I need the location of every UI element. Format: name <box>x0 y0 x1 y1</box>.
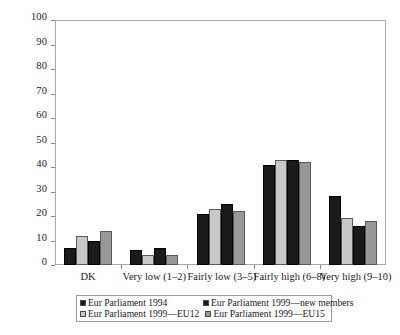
legend-row: Eur Parliament 1999—EU12 Eur Parliament … <box>80 308 329 319</box>
bar-group <box>197 20 245 265</box>
y-axis-tick-label: 90 <box>36 37 47 48</box>
y-axis-tick-label: 70 <box>36 86 47 97</box>
x-axis-tick-mark <box>121 265 122 269</box>
bar <box>64 248 76 265</box>
x-axis: DKVery low (1–2)Fairly low (3–5)Fairly h… <box>55 265 386 287</box>
bar <box>197 214 209 265</box>
x-axis-label: Very high (9–10) <box>320 271 386 283</box>
bar <box>88 241 100 266</box>
x-axis-label: DK <box>55 271 121 283</box>
legend-item-1: Eur Parliament 1999—new members <box>203 297 329 308</box>
bar-group <box>263 20 311 265</box>
x-axis-label: Fairly high (6–8) <box>254 271 320 283</box>
y-axis-tick-label: 0 <box>42 257 47 268</box>
bar <box>76 236 88 265</box>
bar-group <box>130 20 178 265</box>
bar <box>154 248 166 265</box>
legend-label-2: Eur Parliament 1999—EU12 <box>88 308 199 319</box>
chart-legend: Eur Parliament 1994 Eur Parliament 1999—… <box>76 295 332 322</box>
bar-group <box>329 20 377 265</box>
bar <box>341 218 353 265</box>
bar-chart: 0102030405060708090100 DKVery low (1–2)F… <box>0 0 400 335</box>
bars-layer <box>55 20 386 265</box>
legend-label-3: Eur Parliament 1999—EU15 <box>213 308 324 319</box>
bar <box>209 209 221 265</box>
legend-item-2: Eur Parliament 1999—EU12 <box>80 308 205 319</box>
legend-label-0: Eur Parliament 1994 <box>88 297 167 308</box>
bar <box>130 250 142 265</box>
y-axis: 0102030405060708090100 <box>0 20 55 265</box>
legend-row: Eur Parliament 1994 Eur Parliament 1999—… <box>80 297 329 308</box>
bar <box>263 165 275 265</box>
bar <box>142 255 154 265</box>
x-axis-label: Fairly low (3–5) <box>187 271 253 283</box>
legend-swatch-icon-1 <box>203 300 209 306</box>
x-axis-tick-mark <box>187 265 188 269</box>
bar <box>166 255 178 265</box>
legend-swatch-icon-3 <box>205 311 211 317</box>
y-axis-tick-label: 20 <box>36 208 47 219</box>
y-axis-tick-label: 100 <box>31 12 47 23</box>
bar <box>287 160 299 265</box>
bar <box>365 221 377 265</box>
legend-label-1: Eur Parliament 1999—new members <box>211 297 354 308</box>
x-axis-tick-mark <box>320 265 321 269</box>
y-axis-tick-label: 30 <box>36 184 47 195</box>
bar <box>299 162 311 265</box>
bar <box>221 204 233 265</box>
legend-item-0: Eur Parliament 1994 <box>80 297 203 308</box>
y-axis-tick-label: 80 <box>36 61 47 72</box>
legend-swatch-icon-0 <box>80 300 86 306</box>
bar <box>353 226 365 265</box>
y-axis-tick-label: 10 <box>36 233 47 244</box>
bar <box>100 231 112 265</box>
y-axis-tick-label: 50 <box>36 135 47 146</box>
bar <box>233 211 245 265</box>
x-axis-tick-mark <box>254 265 255 269</box>
bar <box>275 160 287 265</box>
bar <box>329 196 341 265</box>
y-axis-tick-label: 40 <box>36 159 47 170</box>
legend-swatch-icon-2 <box>80 311 86 317</box>
legend-item-3: Eur Parliament 1999—EU15 <box>205 308 329 319</box>
y-axis-tick-label: 60 <box>36 110 47 121</box>
x-axis-label: Very low (1–2) <box>121 271 187 283</box>
bar-group <box>64 20 112 265</box>
